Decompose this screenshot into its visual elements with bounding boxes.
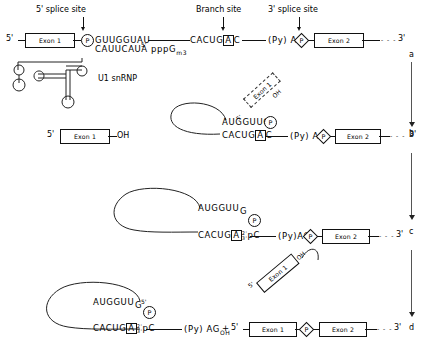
- row-a-exon2: Exon 2: [314, 33, 364, 48]
- row-a-phosphate-donor: P: [81, 34, 94, 47]
- row-d-phosphate-donor: P: [143, 306, 156, 319]
- stage-arrow-b-to-c: [411, 153, 412, 215]
- row-c-lariat-top-g: G: [240, 206, 247, 216]
- stage-label-c: c: [409, 227, 413, 236]
- row-d-branch-adenosine: A: [126, 323, 136, 334]
- row-d-phosphate-junction: P: [299, 322, 315, 338]
- row-a-line-4: [362, 40, 380, 41]
- row-d-lariat-top-sequence: AUGGUU: [93, 297, 134, 307]
- row-d-lariat-top-g-prime: 5': [141, 298, 146, 305]
- row-b-lariat-bottom-sequence: CACUGAC: [222, 130, 272, 141]
- row-d-py-ag-text: (Py) AG: [184, 324, 220, 334]
- row-a-five-prime: 5': [6, 34, 13, 43]
- row-b-five-prime: 5': [47, 130, 54, 139]
- row-d-bottom-post: pC: [143, 323, 156, 333]
- stage-arrow-c-to-d: [411, 250, 412, 312]
- pointer-5-prime-splice-site: [83, 17, 84, 27]
- row-a-trailing-dashes: - - -: [381, 36, 396, 43]
- row-a-exon1: Exon 1: [25, 33, 75, 48]
- row-c-bottom-pre: CACUG: [198, 230, 231, 240]
- row-a-intron-line-right: [242, 40, 266, 41]
- row-b-free-exon1: Exon 1: [60, 129, 110, 144]
- stage-label-b: b: [409, 129, 414, 138]
- row-c-three-prime: 3': [396, 230, 403, 239]
- stage-label-a: a: [409, 50, 414, 59]
- row-d-exon1: Exon 1: [249, 322, 297, 337]
- stage-label-d: d: [409, 323, 414, 332]
- row-c-branch-adenosine: A: [231, 230, 241, 241]
- row-c-phosphate-donor: P: [248, 214, 261, 227]
- row-d-line-4: [365, 329, 377, 330]
- row-b-oh: OH: [117, 131, 129, 140]
- row-c-line-2: [368, 236, 379, 237]
- row-c-trailing-dashes: - - -: [379, 232, 394, 239]
- row-c-exon2: Exon 2: [322, 229, 370, 244]
- row-d-plus: +: [222, 323, 230, 333]
- row-b-trailing-dashes: - - -: [390, 132, 405, 139]
- row-a-branch-post: C: [234, 35, 241, 45]
- row-d-five-prime: 5': [231, 323, 238, 332]
- label-5-prime-splice-site: 5' splice site: [36, 5, 86, 14]
- row-b-bottom-post: C: [266, 130, 273, 140]
- row-a-u1-five-prime: 5': [141, 41, 146, 48]
- row-c-bottom-post: pC: [248, 230, 261, 240]
- row-a-line-1: [18, 40, 25, 41]
- row-b-line-1: [108, 136, 117, 137]
- row-b-detached-exon1-oh: OH: [271, 88, 283, 99]
- stage-arrow-a-to-b: [411, 62, 412, 122]
- row-a-u1-sequence-text: CAUUCAUA pppG: [95, 44, 176, 54]
- row-c-lariat-loop: [112, 186, 212, 242]
- row-b-bottom-pre: CACUG: [222, 130, 255, 140]
- row-d-bottom-pre: CACUG: [93, 323, 126, 333]
- row-d-exon2: Exon 2: [319, 322, 367, 337]
- row-d-intron-line: [146, 329, 182, 330]
- row-c-detached-exon1-group: Exon 1: [256, 253, 300, 293]
- row-c-lariat-top-sequence: AUGGUU: [198, 203, 239, 213]
- label-branch-site: Branch site: [196, 5, 241, 14]
- row-b-exon2: Exon 2: [335, 129, 381, 144]
- row-d-trailing-dashes: - - -: [377, 325, 392, 332]
- u1-snrnp-label: U1 snRNP: [98, 74, 137, 83]
- row-c-detached-exon1: Exon 1: [256, 253, 300, 293]
- row-a-intron-line-left: [148, 40, 190, 41]
- row-a-branch-adenosine: A: [223, 35, 233, 46]
- row-b-branch-adenosine: A: [255, 130, 265, 141]
- row-b-phosphate-donor: P: [264, 116, 277, 129]
- row-c-intron-line: [250, 236, 276, 237]
- row-b-line-3: [379, 136, 390, 137]
- row-a-three-prime: 3': [398, 34, 405, 43]
- row-c-detached-exon1-five-prime: 5': [246, 280, 255, 289]
- u1-snrnp-structure: [8, 56, 116, 116]
- row-d-three-prime: 3': [394, 323, 401, 332]
- row-a-u1-sub-3: 3: [183, 49, 187, 56]
- row-a-branch-sequence: CACUGAC: [190, 35, 240, 46]
- row-c-oh-arc: [300, 244, 324, 264]
- row-a-line-2: [73, 40, 81, 41]
- row-a-branch-pre: CACUG: [190, 35, 223, 45]
- label-3-prime-splice-site: 3' splice site: [268, 5, 318, 14]
- pointer-3-prime-splice-site: [299, 17, 300, 27]
- pointer-branch-site: [223, 17, 224, 27]
- row-b-intron-line: [266, 136, 288, 137]
